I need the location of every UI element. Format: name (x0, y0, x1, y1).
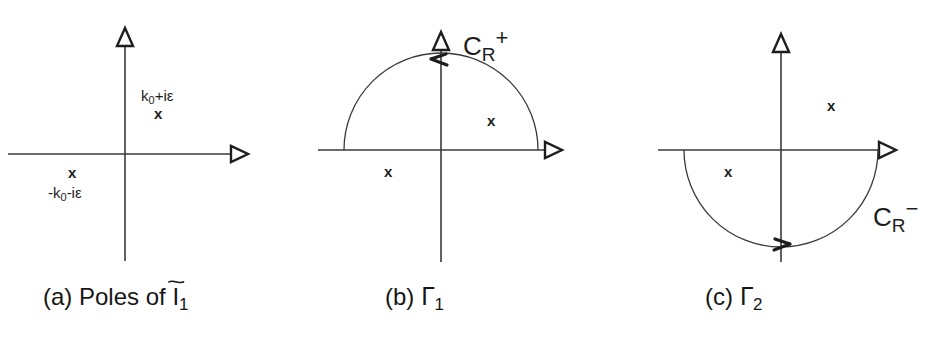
pole-lower-left-tail: -iε (67, 184, 82, 201)
caption-a-symbol-sub: 1 (179, 295, 188, 314)
pole-lower-left-label: -k0-iε (48, 185, 82, 203)
pole-marker-lower-left: x (384, 164, 392, 179)
pole-lower-left-marker: x (68, 165, 76, 180)
caption-b-symbol-sub: 1 (434, 295, 443, 314)
real-axis-arrowhead-icon (879, 142, 896, 158)
contour-label-base: C (463, 31, 482, 61)
caption-c: (c) Γ2 (705, 285, 763, 313)
contour-label-sup: − (906, 196, 919, 221)
real-axis-arrowhead-icon (231, 146, 248, 162)
panel-a: k0+iε x x -k0-iε (a) Poles of ~I1 (0, 0, 300, 354)
pole-upper-right-label: k0+iε (141, 88, 173, 106)
pole-upper-right-marker: x (154, 106, 162, 121)
contour-direction-arrow-icon (431, 54, 447, 65)
complex-plane-contour-figure: k0+iε x x -k0-iε (a) Poles of ~I1 x (0, 0, 948, 354)
caption-c-symbol-sub: 2 (753, 295, 762, 314)
pole-lower-left-base: -k (48, 184, 61, 201)
caption-a-text: Poles of (79, 283, 166, 310)
caption-c-symbol: Γ (740, 283, 753, 311)
contour-label-c-r-minus: CR− (873, 198, 918, 235)
pole-marker-lower-left: x (724, 164, 732, 179)
caption-a: (a) Poles of ~I1 (43, 285, 189, 313)
contour-label-sup: + (496, 25, 509, 50)
imaginary-axis-arrowhead-icon (773, 34, 789, 52)
pole-marker-upper-right: x (827, 98, 835, 113)
contour-label-c-r-plus: CR+ (463, 27, 508, 64)
pole-upper-right-tail: +iε (155, 87, 174, 104)
caption-b: (b) Γ1 (385, 285, 444, 313)
caption-a-symbol-wrap: ~I (172, 285, 179, 309)
contour-label-sub: R (892, 215, 906, 236)
imaginary-axis-arrowhead-icon (117, 28, 133, 46)
pole-marker-upper-right: x (487, 113, 495, 128)
panel-b: x x CR+ (b) Γ1 (300, 0, 630, 354)
panel-c: x x CR− (c) Γ2 (630, 0, 948, 354)
contour-label-sub: R (482, 44, 496, 65)
contour-direction-arrow-icon (774, 239, 790, 250)
contour-label-base: C (873, 202, 892, 232)
real-axis-arrowhead-icon (545, 142, 562, 158)
caption-a-symbol-accent: ~ (166, 271, 185, 293)
caption-c-prefix: (c) (705, 283, 733, 310)
pole-upper-right-base: k (141, 87, 149, 104)
caption-b-symbol: Γ (421, 283, 434, 311)
panel-c-axes (630, 0, 948, 354)
caption-b-prefix: (b) (385, 283, 414, 310)
imaginary-axis-arrowhead-icon (433, 32, 449, 50)
caption-a-prefix: (a) (43, 283, 72, 310)
